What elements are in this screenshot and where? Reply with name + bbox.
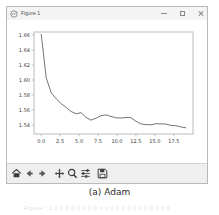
- x-tick-label: 15.0: [149, 138, 160, 144]
- arrow-right-icon[interactable]: [36, 168, 48, 180]
- y-tick-label: 1.64: [19, 47, 30, 53]
- maximize-button[interactable]: [178, 8, 187, 19]
- x-tick-label: 7.5: [94, 138, 102, 144]
- navigation-toolbar: [7, 163, 207, 183]
- move-cross-icon[interactable]: [53, 168, 65, 180]
- y-tick-label: 1.54: [19, 122, 30, 128]
- y-tick-label: 1.60: [19, 77, 30, 83]
- x-tick-label: 17.5: [168, 138, 179, 144]
- cut-off-text-line: Figure : 1 0 0 0 0 0 0 0 0 n o 0 0 0 0 0…: [24, 205, 196, 212]
- y-tick-label: 1.56: [19, 107, 30, 113]
- chart-svg: 1.66 1.64 1.62 1.60 1.58 1.56 1.54: [7, 20, 207, 163]
- window-title: Figure 1: [21, 7, 40, 20]
- x-tick-label: 10.0: [111, 138, 122, 144]
- arrow-left-icon[interactable]: [23, 168, 35, 180]
- home-icon[interactable]: [10, 168, 22, 180]
- y-tick-label: 1.62: [19, 62, 30, 68]
- x-tick-label: 0.0: [37, 138, 45, 144]
- window-controls: [160, 7, 205, 20]
- figure-window: Figure 1 1.66 1.64 1.62: [6, 6, 208, 184]
- sliders-icon[interactable]: [79, 168, 91, 180]
- close-button[interactable]: [196, 8, 205, 19]
- y-tick-label: 1.58: [19, 92, 30, 98]
- page-root: Figure 1 1.66 1.64 1.62: [0, 0, 219, 215]
- figure-caption: (a) Adam: [0, 187, 219, 197]
- y-tick-label: 1.66: [19, 32, 30, 38]
- x-tick-label: 2.5: [56, 138, 64, 144]
- magnifier-icon[interactable]: [66, 168, 78, 180]
- window-titlebar[interactable]: Figure 1: [7, 7, 207, 21]
- x-tick-label: 5.0: [75, 138, 83, 144]
- floppy-disk-icon[interactable]: [96, 168, 108, 180]
- plot-canvas[interactable]: 1.66 1.64 1.62 1.60 1.58 1.56 1.54: [7, 20, 207, 163]
- minimize-button[interactable]: [160, 8, 169, 19]
- figure-icon: [10, 10, 18, 18]
- x-tick-label: 12.5: [130, 138, 141, 144]
- cut-off-text: Figure : 1 0 0 0 0 0 0 0 0 n o 0 0 0 0 0…: [24, 205, 196, 212]
